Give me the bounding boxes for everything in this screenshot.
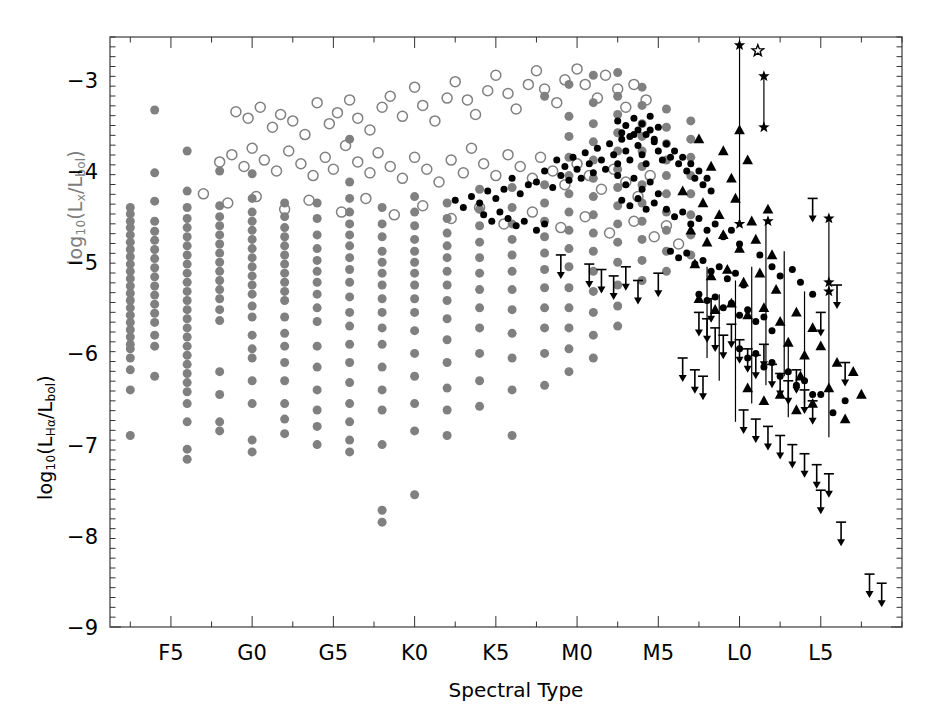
upper-limit-head: [784, 398, 792, 405]
data-point: [655, 147, 662, 154]
data-point: [540, 303, 549, 312]
data-point: [183, 342, 192, 351]
y-tick-label: −6: [67, 342, 98, 366]
data-point: [704, 175, 711, 182]
upper-limit-head: [597, 287, 605, 294]
data-point: [578, 175, 585, 182]
data-point: [150, 236, 159, 245]
data-point: [353, 113, 363, 123]
data-point: [564, 344, 573, 353]
y-tick-label: −7: [67, 434, 98, 458]
data-point: [694, 293, 705, 303]
data-point: [508, 203, 517, 212]
data-point: [378, 340, 387, 349]
data-point: [638, 235, 647, 244]
data-point: [769, 263, 776, 270]
data-point: [248, 281, 257, 290]
data-point: [183, 323, 192, 332]
data-point: [410, 399, 419, 408]
data-point: [272, 166, 282, 176]
data-point: [734, 243, 745, 253]
data-point: [280, 241, 289, 250]
data-point: [508, 431, 517, 440]
data-point: [345, 417, 354, 426]
data-point: [726, 173, 737, 183]
data-point: [215, 212, 224, 221]
data-point: [248, 262, 257, 271]
data-point: [422, 164, 432, 174]
data-point: [434, 177, 444, 187]
data-point: [215, 249, 224, 258]
data-point: [345, 219, 354, 228]
plot-frame: [110, 37, 902, 627]
data-point: [183, 187, 192, 196]
data-point: [475, 221, 484, 230]
data-point: [345, 308, 354, 317]
data-point: [635, 127, 642, 134]
data-point: [313, 244, 322, 253]
data-point: [508, 353, 517, 362]
data-series: [126, 39, 887, 607]
upper-limit-head: [752, 436, 760, 443]
data-point: [345, 322, 354, 331]
data-point: [313, 422, 322, 431]
data-point: [378, 258, 387, 267]
x-tick-label: M0: [561, 641, 592, 665]
data-point: [150, 168, 159, 177]
data-point: [475, 349, 484, 358]
data-point: [410, 281, 419, 290]
data-point: [635, 142, 642, 149]
data-point: [488, 218, 495, 225]
data-point: [443, 241, 452, 250]
data-point: [556, 223, 566, 233]
data-point: [378, 518, 387, 527]
data-point: [613, 68, 622, 77]
data-point: [460, 204, 467, 211]
data-point: [505, 215, 512, 222]
data-point: [183, 269, 192, 278]
upper-limit-head: [752, 372, 760, 379]
data-point: [540, 180, 549, 189]
data-point: [699, 181, 706, 188]
data-point: [475, 303, 484, 312]
data-point: [442, 93, 452, 103]
data-point: [126, 365, 135, 374]
data-point: [651, 136, 658, 143]
upper-limit-head: [744, 366, 752, 373]
upper-limit-head: [817, 507, 825, 514]
data-point: [215, 267, 224, 276]
data-point: [629, 216, 639, 226]
data-point: [732, 270, 739, 277]
upper-limit-head: [719, 352, 727, 359]
data-point: [503, 89, 513, 99]
data-point: [840, 413, 851, 423]
data-point: [183, 250, 192, 259]
data-point: [589, 308, 598, 317]
data-point: [248, 353, 257, 362]
data-point: [589, 267, 598, 276]
data-point: [686, 210, 695, 219]
data-point: [626, 133, 633, 140]
data-point: [248, 436, 257, 445]
data-point: [564, 208, 573, 217]
data-point: [685, 225, 696, 235]
data-point: [183, 369, 192, 378]
data-point: [570, 154, 577, 161]
data-point: [276, 110, 286, 120]
data-point: [280, 260, 289, 269]
data-point: [320, 152, 330, 162]
data-point: [686, 116, 695, 125]
data-point: [280, 342, 289, 351]
data-point: [239, 161, 249, 171]
data-point: [150, 272, 159, 281]
data-point: [622, 122, 629, 129]
data-point: [126, 353, 135, 362]
data-point: [443, 358, 452, 367]
x-tick-label: M5: [643, 641, 674, 665]
upper-limit-head: [699, 393, 707, 400]
data-point: [248, 169, 257, 178]
data-point: [466, 143, 476, 153]
data-point: [248, 399, 257, 408]
upper-limit-head: [788, 462, 796, 469]
data-point: [662, 105, 671, 114]
